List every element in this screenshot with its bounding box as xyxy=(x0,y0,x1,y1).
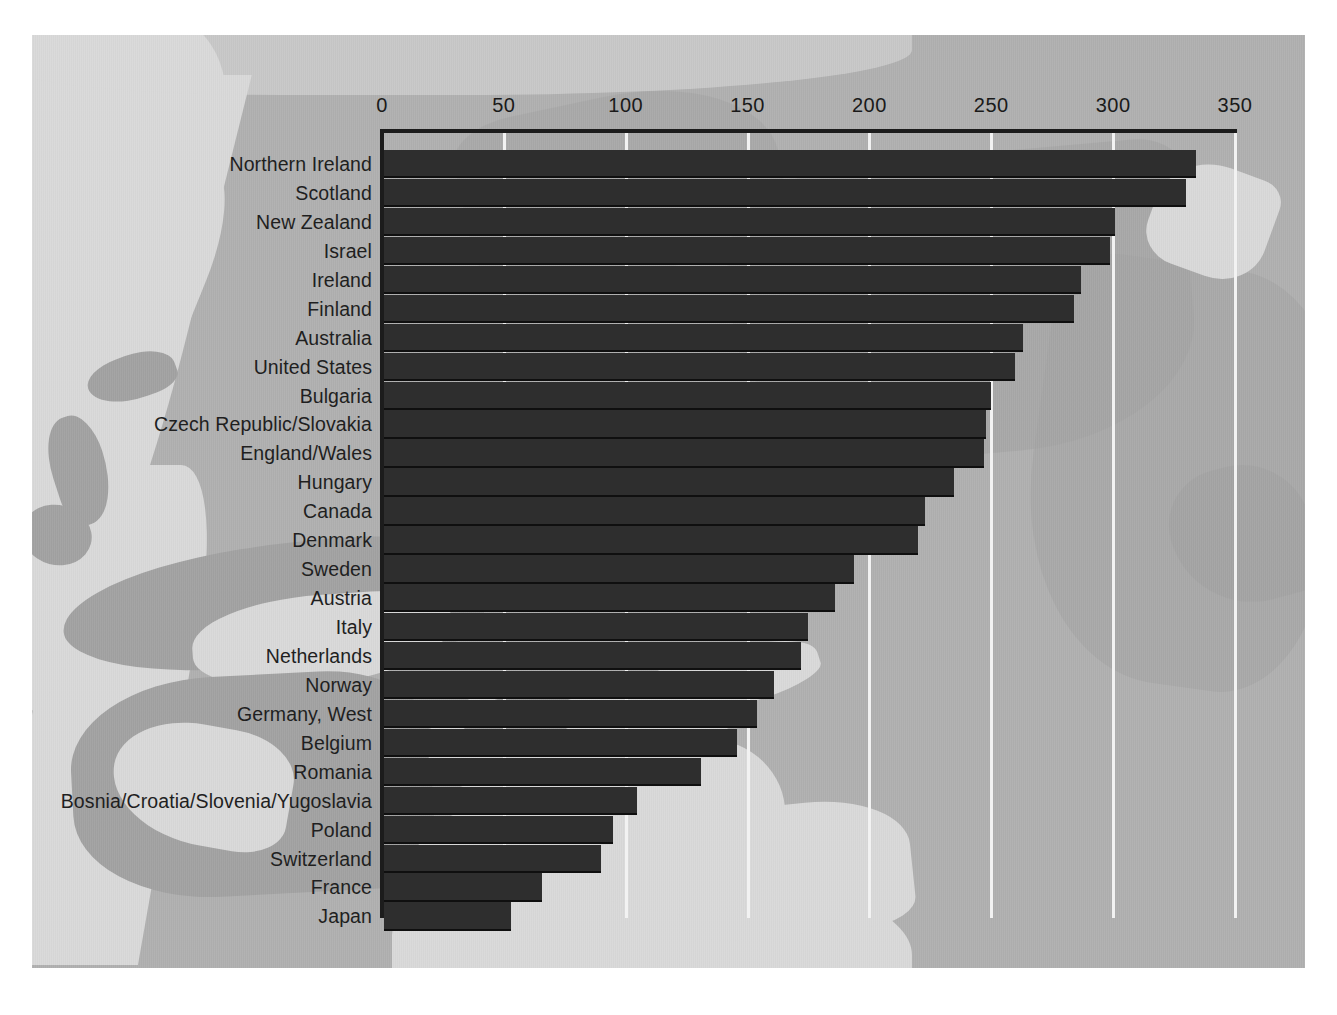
bar[interactable] xyxy=(384,845,601,873)
bar-category-label: Australia xyxy=(295,325,372,351)
bar-category-label: Scotland xyxy=(295,180,372,206)
bar-row[interactable]: Israel xyxy=(384,237,1244,266)
x-tick-label: 150 xyxy=(730,94,765,117)
bar-row[interactable]: Northern Ireland xyxy=(384,150,1244,179)
bar[interactable] xyxy=(384,382,991,410)
bar-row[interactable]: Switzerland xyxy=(384,845,1244,874)
bar[interactable] xyxy=(384,671,774,699)
bar-row[interactable]: New Zealand xyxy=(384,208,1244,237)
bar-category-label: Netherlands xyxy=(266,643,372,669)
bar-row[interactable]: Ireland xyxy=(384,266,1244,295)
x-tick-label: 300 xyxy=(1096,94,1131,117)
bar-row[interactable]: Poland xyxy=(384,816,1244,845)
bar[interactable] xyxy=(384,902,511,930)
bar-row[interactable]: Romania xyxy=(384,758,1244,787)
bar-category-label: France xyxy=(311,874,372,900)
x-tick-label: 0 xyxy=(376,94,388,117)
bars-group: Northern IrelandScotlandNew ZealandIsrae… xyxy=(384,150,1244,910)
bar-category-label: Denmark xyxy=(292,527,372,553)
x-axis-line xyxy=(380,129,1237,133)
bar-category-label: Italy xyxy=(336,614,372,640)
bar-row[interactable]: Hungary xyxy=(384,468,1244,497)
bar[interactable] xyxy=(384,816,613,844)
bar-category-label: Northern Ireland xyxy=(229,151,372,177)
bar-row[interactable]: Denmark xyxy=(384,526,1244,555)
bar[interactable] xyxy=(384,150,1196,178)
bar-category-label: Israel xyxy=(324,238,372,264)
chart-page: 050100150200250300350 Northern IrelandSc… xyxy=(0,0,1337,1015)
bar[interactable] xyxy=(384,526,918,554)
bar[interactable] xyxy=(384,208,1115,236)
bar[interactable] xyxy=(384,237,1110,265)
bar-row[interactable]: Australia xyxy=(384,324,1244,353)
bar[interactable] xyxy=(384,410,986,438)
bar-row[interactable]: Bulgaria xyxy=(384,382,1244,411)
bar-category-label: Ireland xyxy=(312,267,372,293)
bar-row[interactable]: Scotland xyxy=(384,179,1244,208)
bar[interactable] xyxy=(384,729,737,757)
bar-row[interactable]: England/Wales xyxy=(384,439,1244,468)
bar[interactable] xyxy=(384,179,1186,207)
bar-category-label: Norway xyxy=(305,672,372,698)
bar[interactable] xyxy=(384,873,542,901)
bar-category-label: Bosnia/Croatia/Slovenia/Yugoslavia xyxy=(61,788,372,814)
bar-row[interactable]: Canada xyxy=(384,497,1244,526)
bar-row[interactable]: Japan xyxy=(384,902,1244,931)
bar-row[interactable]: United States xyxy=(384,353,1244,382)
x-tick-label: 200 xyxy=(852,94,887,117)
x-tick-label: 250 xyxy=(974,94,1009,117)
bar-category-label: Czech Republic/Slovakia xyxy=(154,411,372,437)
bar[interactable] xyxy=(384,758,701,786)
bar-category-label: Sweden xyxy=(301,556,372,582)
horizontal-bar-chart: 050100150200250300350 Northern IrelandSc… xyxy=(0,0,1337,1015)
bar[interactable] xyxy=(384,353,1015,381)
bar-category-label: Poland xyxy=(311,817,372,843)
bar-category-label: Bulgaria xyxy=(300,383,372,409)
bar-category-label: England/Wales xyxy=(240,440,372,466)
bar-row[interactable]: Finland xyxy=(384,295,1244,324)
x-tick-label: 50 xyxy=(492,94,515,117)
bar-row[interactable]: Netherlands xyxy=(384,642,1244,671)
bar[interactable] xyxy=(384,700,757,728)
bar-category-label: Finland xyxy=(307,296,372,322)
bar[interactable] xyxy=(384,295,1074,323)
bar[interactable] xyxy=(384,787,637,815)
bar-category-label: Germany, West xyxy=(237,701,372,727)
bar-category-label: Romania xyxy=(293,759,372,785)
bar-row[interactable]: Sweden xyxy=(384,555,1244,584)
x-tick-label: 100 xyxy=(608,94,643,117)
bar-row[interactable]: Norway xyxy=(384,671,1244,700)
bar-row[interactable]: Czech Republic/Slovakia xyxy=(384,410,1244,439)
bar[interactable] xyxy=(384,555,854,583)
bar-row[interactable]: France xyxy=(384,873,1244,902)
bar[interactable] xyxy=(384,584,835,612)
x-tick-label: 350 xyxy=(1218,94,1253,117)
bar[interactable] xyxy=(384,468,954,496)
bar[interactable] xyxy=(384,497,925,525)
bar-category-label: New Zealand xyxy=(256,209,372,235)
bar-category-label: United States xyxy=(254,354,372,380)
bar[interactable] xyxy=(384,642,801,670)
bar-row[interactable]: Italy xyxy=(384,613,1244,642)
bar-category-label: Switzerland xyxy=(270,846,372,872)
bar-category-label: Japan xyxy=(318,903,372,929)
bar[interactable] xyxy=(384,439,984,467)
bar-row[interactable]: Bosnia/Croatia/Slovenia/Yugoslavia xyxy=(384,787,1244,816)
bar[interactable] xyxy=(384,324,1023,352)
bar-row[interactable]: Belgium xyxy=(384,729,1244,758)
bar-category-label: Canada xyxy=(303,498,372,524)
bar-row[interactable]: Germany, West xyxy=(384,700,1244,729)
bar[interactable] xyxy=(384,266,1081,294)
bar-row[interactable]: Austria xyxy=(384,584,1244,613)
bar-category-label: Austria xyxy=(311,585,372,611)
bar-category-label: Hungary xyxy=(298,469,372,495)
bar[interactable] xyxy=(384,613,808,641)
bar-category-label: Belgium xyxy=(301,730,372,756)
